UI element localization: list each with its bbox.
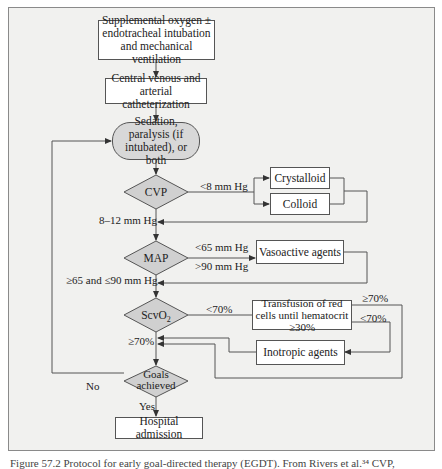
map-label: MAP: [136, 252, 176, 264]
supplemental-oxygen-text: Supplemental oxygen ± endotracheal intub…: [101, 14, 212, 66]
scvo2-text: ScvO: [141, 309, 167, 321]
figure-caption: Figure 57.2 Protocol for early goal-dire…: [10, 457, 395, 469]
hospital-admission-text: Hospital admission: [116, 415, 202, 441]
supplemental-oxygen-box: Supplemental oxygen ± endotracheal intub…: [98, 20, 215, 60]
colloid-box: Colloid: [270, 193, 330, 215]
crystalloid-box: Crystalloid: [270, 167, 330, 189]
crystalloid-text: Crystalloid: [274, 172, 325, 185]
catheterization-text: Central venous and arterial catheterizat…: [106, 72, 206, 111]
scvo2-subscript: 2: [167, 315, 171, 324]
scvo2-ok-label: ≥70%: [128, 335, 154, 347]
hospital-admission-box: Hospital admission: [115, 417, 203, 439]
sedation-text: Sedation, paralysis (if intubated), or b…: [117, 115, 195, 167]
map-ok-label: ≥65 and ≤90 mm Hg: [66, 274, 158, 286]
scvo2-label: ScvO2: [131, 309, 181, 326]
goals-yes-label: Yes: [139, 400, 155, 412]
map-high-label: >90 mm Hg: [195, 260, 248, 272]
transfusion-text: Transfusion of red cells until hematocri…: [253, 297, 351, 333]
colloid-text: Colloid: [283, 198, 318, 211]
vasoactive-box: Vasoactive agents: [256, 240, 344, 264]
transfusion-ok-label: ≥70%: [362, 292, 388, 304]
cvp-label: CVP: [136, 186, 176, 198]
map-low-label: <65 mm Hg: [195, 241, 248, 253]
goals-label: Goals achieved: [136, 369, 176, 391]
inotropic-box: Inotropic agents: [256, 340, 345, 365]
cvp-ok-label: 8–12 mm Hg: [99, 214, 157, 226]
vasoactive-text: Vasoactive agents: [259, 246, 341, 259]
catheterization-box: Central venous and arterial catheterizat…: [105, 78, 207, 104]
goals-no-label: No: [86, 380, 99, 392]
inotropic-text: Inotropic agents: [263, 346, 337, 359]
sedation-box: Sedation, paralysis (if intubated), or b…: [112, 122, 200, 160]
transfusion-low-label: <70%: [360, 312, 386, 324]
cvp-low-label: <8 mm Hg: [200, 180, 248, 192]
scvo2-low-label: <70%: [206, 303, 232, 315]
transfusion-box: Transfusion of red cells until hematocri…: [252, 300, 352, 330]
